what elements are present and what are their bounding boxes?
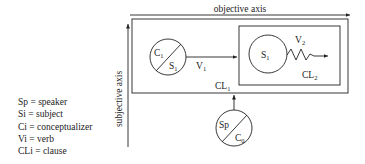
verb-arrow-v2 xyxy=(287,49,328,60)
cl2-label: CL2 xyxy=(302,70,317,81)
c1-label: C1 xyxy=(154,48,164,59)
c0-label: C0 xyxy=(235,133,245,144)
legend-item: Vi = verb xyxy=(18,133,92,145)
subjective-axis-label: subjective axis xyxy=(114,71,124,127)
s1-label-circle2: S1 xyxy=(261,50,270,61)
v2-label: V2 xyxy=(295,35,305,46)
objective-axis-label: objective axis xyxy=(214,4,267,14)
s1-label-circle1: S1 xyxy=(169,61,178,72)
v1-label: V1 xyxy=(196,61,206,72)
cl1-label: CL1 xyxy=(215,81,230,92)
diagram-canvas: objective axis subjective axis CL1 CL2 C… xyxy=(0,0,365,164)
legend-item: CLi = clause xyxy=(18,145,92,157)
legend-item: Ci = conceptualizer xyxy=(18,121,92,133)
clause-box-cl2 xyxy=(239,26,340,85)
sp-label: Sp xyxy=(219,120,229,130)
legend-item: Sp = speaker xyxy=(18,96,92,108)
legend-item: Si = subject xyxy=(18,108,92,120)
legend: Sp = speaker Si = subject Ci = conceptua… xyxy=(18,96,92,157)
